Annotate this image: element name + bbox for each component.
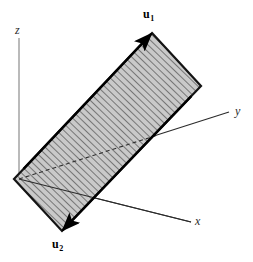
vector-label-u1: u1 (143, 8, 154, 20)
axis-label-z: z (15, 24, 20, 36)
vector-label-u2-base: u (52, 237, 59, 251)
vector-label-u2: u2 (52, 238, 63, 250)
vector-label-u1-subscript: 1 (150, 14, 154, 23)
figure-container: z y x u1 u2 (0, 0, 253, 262)
coordinate-diagram (0, 0, 253, 262)
axis-label-y: y (235, 105, 240, 117)
vector-label-u1-base: u (143, 7, 150, 21)
vector-label-u2-subscript: 2 (59, 244, 63, 253)
axis-label-x: x (195, 215, 200, 227)
